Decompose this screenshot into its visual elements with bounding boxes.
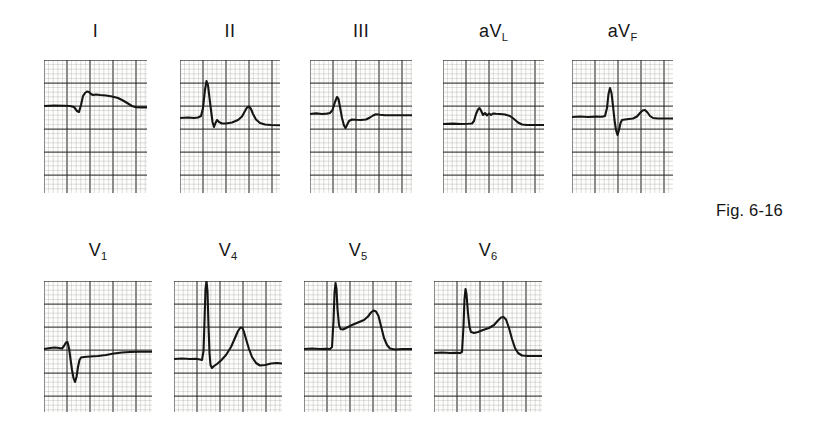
lead-panel-III: III bbox=[310, 22, 412, 193]
lead-label-II: II bbox=[180, 22, 280, 40]
lead-label-main-V6: V bbox=[479, 240, 491, 260]
ecg-strip-I bbox=[44, 60, 147, 193]
lead-panel-I: I bbox=[44, 22, 147, 193]
lead-label-V5: V5 bbox=[304, 241, 412, 259]
ecg-strip-III bbox=[310, 60, 412, 193]
lead-label-sub-V1: 1 bbox=[101, 250, 107, 262]
ecg-strip-V4 bbox=[174, 281, 282, 412]
lead-label-main-III: III bbox=[353, 21, 369, 41]
ecg-strip-V5 bbox=[304, 281, 412, 412]
lead-label-main-V5: V bbox=[349, 240, 361, 260]
lead-label-V4: V4 bbox=[174, 241, 282, 259]
lead-label-sub-V5: 5 bbox=[361, 250, 367, 262]
lead-label-sub-aVL: L bbox=[502, 31, 508, 43]
lead-label-V1: V1 bbox=[44, 241, 152, 259]
lead-label-main-aVL: aV bbox=[479, 21, 502, 41]
lead-label-sub-V4: 4 bbox=[231, 250, 237, 262]
ecg-grid-V6 bbox=[434, 281, 542, 412]
lead-panel-V5: V5 bbox=[304, 241, 412, 412]
ecg-strip-aVF bbox=[572, 60, 673, 193]
ecg-figure: IIIIIIaVLaVFV1V4V5V6 Fig. 6-16 bbox=[0, 0, 829, 432]
ecg-grid-V4 bbox=[174, 281, 282, 412]
lead-label-I: I bbox=[44, 22, 147, 40]
ecg-strip-V1 bbox=[44, 281, 152, 412]
lead-label-aVF: aVF bbox=[572, 22, 673, 40]
lead-panel-aVF: aVF bbox=[572, 22, 673, 193]
lead-panel-aVL: aVL bbox=[443, 22, 544, 193]
lead-panel-II: II bbox=[180, 22, 280, 193]
ecg-grid-III bbox=[310, 60, 412, 193]
lead-label-sub-V6: 6 bbox=[491, 250, 497, 262]
lead-label-main-aVF: aV bbox=[608, 21, 631, 41]
ecg-strip-V6 bbox=[434, 281, 542, 412]
lead-label-V6: V6 bbox=[434, 241, 542, 259]
ecg-grid-V1 bbox=[44, 281, 152, 412]
ecg-grid-aVL bbox=[443, 60, 544, 193]
ecg-grid-aVF bbox=[572, 60, 673, 193]
ecg-strip-II bbox=[180, 60, 280, 193]
ecg-grid-I bbox=[44, 60, 147, 193]
lead-label-sub-aVF: F bbox=[631, 31, 638, 43]
ecg-grid-V5 bbox=[304, 281, 412, 412]
ecg-trace-II bbox=[180, 81, 280, 127]
figure-caption: Fig. 6-16 bbox=[716, 201, 783, 220]
lead-panel-V1: V1 bbox=[44, 241, 152, 412]
ecg-strip-aVL bbox=[443, 60, 544, 193]
lead-panel-V6: V6 bbox=[434, 241, 542, 412]
lead-label-main-V4: V bbox=[219, 240, 231, 260]
lead-label-main-I: I bbox=[93, 21, 98, 41]
lead-label-aVL: aVL bbox=[443, 22, 544, 40]
lead-label-main-II: II bbox=[225, 21, 236, 41]
lead-panel-V4: V4 bbox=[174, 241, 282, 412]
lead-label-main-V1: V bbox=[89, 240, 101, 260]
ecg-grid-II bbox=[180, 60, 280, 193]
lead-label-III: III bbox=[310, 22, 412, 40]
